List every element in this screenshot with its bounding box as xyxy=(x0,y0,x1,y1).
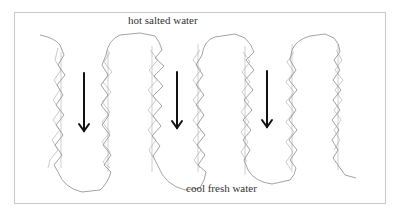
hot-salted-water-label: hot salted water xyxy=(128,15,198,26)
down-arrow-icon xyxy=(79,73,89,131)
serpentine-path-secondary xyxy=(48,48,343,170)
cool-fresh-water-label: cool fresh water xyxy=(186,183,257,194)
serpentine-channel-diagram xyxy=(0,0,396,211)
down-arrow-icon xyxy=(172,72,182,128)
down-arrow-icon xyxy=(262,71,272,127)
